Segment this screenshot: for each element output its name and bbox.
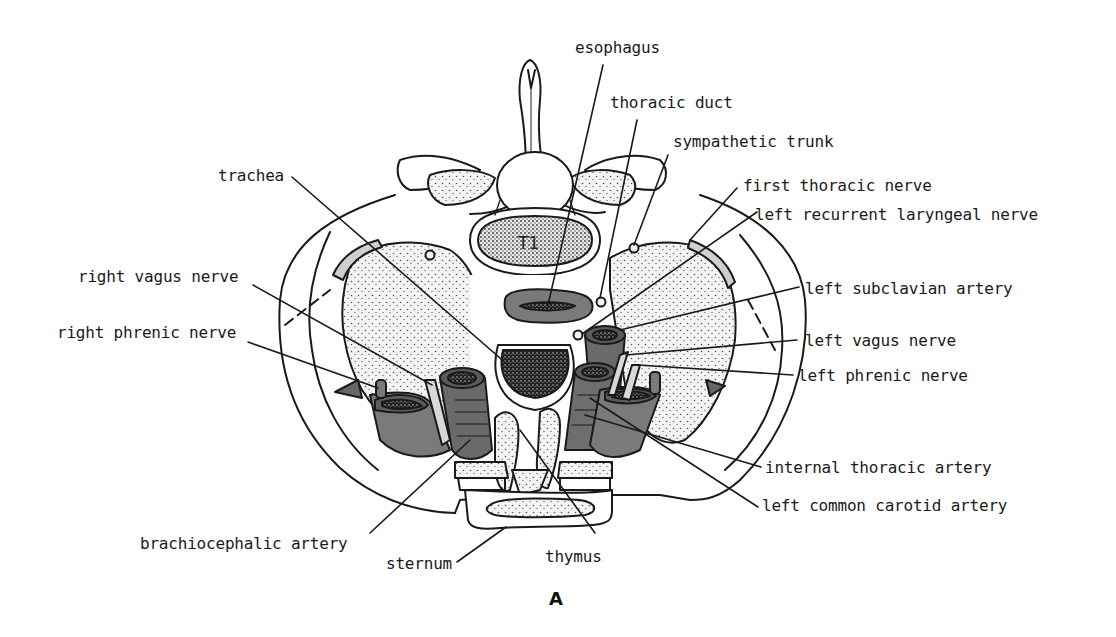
anatomy-figure: T1 esophagus thoracic duct sympathetic t… (0, 0, 1116, 637)
label-left-common-carotid-artery: left common carotid artery (762, 497, 1007, 515)
label-thoracic-duct: thoracic duct (610, 94, 733, 112)
sympathetic-trunk-right (426, 251, 435, 260)
vertebra-t1 (470, 152, 600, 275)
label-right-phrenic-nerve: right phrenic nerve (57, 324, 236, 342)
label-esophagus: esophagus (575, 39, 660, 57)
vertebra-label: T1 (518, 233, 539, 253)
label-first-thoracic-nerve: first thoracic nerve (743, 177, 932, 195)
right-wedge (335, 380, 362, 398)
label-sympathetic-trunk: sympathetic trunk (673, 133, 833, 151)
esophagus (505, 289, 593, 322)
label-thymus: thymus (545, 548, 602, 566)
label-brachiocephalic-artery: brachiocephalic artery (140, 535, 348, 553)
panel-letter: A (549, 588, 563, 609)
label-trachea: trachea (218, 167, 284, 185)
label-left-vagus-nerve: left vagus nerve (805, 332, 956, 350)
label-sternum: sternum (386, 555, 452, 573)
thoracic-duct (597, 298, 606, 307)
left-recurrent-laryngeal-nerve-dot (574, 331, 583, 340)
label-left-subclavian-artery: left subclavian artery (805, 280, 1013, 298)
label-left-phrenic-nerve: left phrenic nerve (798, 367, 968, 385)
label-left-recurrent-laryngeal-nerve: left recurrent laryngeal nerve (755, 206, 1038, 224)
label-right-vagus-nerve: right vagus nerve (78, 268, 238, 286)
label-internal-thoracic-artery: internal thoracic artery (765, 459, 991, 477)
